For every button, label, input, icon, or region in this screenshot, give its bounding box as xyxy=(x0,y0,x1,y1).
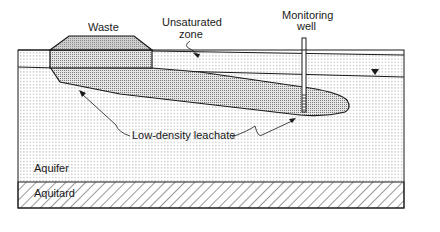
leachate-diagram: Waste Unsaturated zone Monitoring well L… xyxy=(0,0,440,232)
waste-body xyxy=(50,50,152,68)
aquitard-label: Aquitard xyxy=(34,187,75,199)
monitoring-well-label-2: well xyxy=(296,20,316,32)
unsaturated-zone-label-2: zone xyxy=(179,28,203,40)
waste-mound xyxy=(50,36,152,50)
unsaturated-zone-label: Unsaturated xyxy=(162,16,222,28)
waste-label: Waste xyxy=(88,21,119,33)
aquitard xyxy=(18,182,404,208)
leachate-label: Low-density leachate xyxy=(132,129,235,141)
unsaturated-zone-right xyxy=(152,53,404,70)
aquifer-label: Aquifer xyxy=(34,162,69,174)
